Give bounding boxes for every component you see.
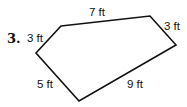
pentagon-shape	[36, 16, 176, 101]
side-label-lower-left: 5 ft	[37, 78, 54, 90]
side-label-upper-left: 3 ft	[27, 32, 44, 44]
problem-number: 3.	[7, 31, 21, 46]
side-label-top: 7 ft	[89, 6, 106, 18]
pentagon-diagram: 3. 3 ft 7 ft 3 ft 5 ft 9 ft	[0, 0, 187, 107]
side-label-lower-right: 9 ft	[127, 78, 144, 90]
side-label-upper-right: 3 ft	[164, 20, 181, 32]
